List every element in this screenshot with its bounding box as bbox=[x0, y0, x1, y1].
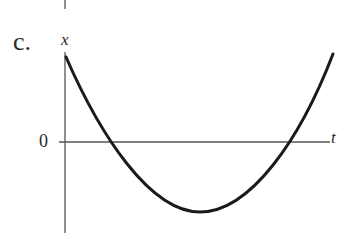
parabola-curve bbox=[66, 54, 333, 212]
plot-area bbox=[0, 0, 350, 239]
